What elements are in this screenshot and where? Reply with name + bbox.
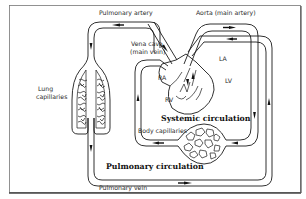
label-lv: LV bbox=[225, 77, 233, 84]
label-lung: Lung bbox=[38, 85, 53, 93]
circulation-diagram: Pulmonary artery Aorta (main artery) Ven… bbox=[0, 0, 306, 199]
label-ra: RA bbox=[158, 74, 167, 81]
label-rv: RV bbox=[165, 96, 174, 103]
label-vena-cava: Vena cava bbox=[131, 40, 163, 47]
label-la: LA bbox=[219, 55, 228, 62]
label-main-vein: (main vein) bbox=[130, 48, 165, 55]
label-pulmonary-artery: Pulmonary artery bbox=[99, 9, 153, 17]
label-pulmonary-vein: Pulmonary vein bbox=[99, 184, 147, 192]
label-lung-capillaries: capillaries bbox=[36, 93, 67, 101]
label-systemic-circulation: Systemic circulation bbox=[161, 114, 251, 123]
label-body-capillaries: Body capillaries bbox=[138, 127, 187, 135]
label-aorta: Aorta (main artery) bbox=[196, 9, 256, 17]
label-pulmonary-circulation: Pulmonary circulation bbox=[106, 162, 204, 171]
